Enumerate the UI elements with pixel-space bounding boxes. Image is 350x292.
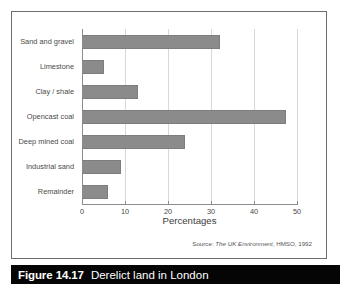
category-axis-labels: Sand and gravel Limestone Clay / shale O… xyxy=(12,29,78,204)
source-publication-title: The UK Environment xyxy=(215,240,272,247)
chart-panel: Sand and gravel Limestone Clay / shale O… xyxy=(11,11,327,259)
tick-mark xyxy=(211,201,212,205)
bar-row xyxy=(82,160,297,174)
figure-caption-bar: Figure 14.17 Derelict land in London xyxy=(11,265,340,284)
source-note: Source: The UK Environment, HMSO, 1992 xyxy=(192,240,312,247)
x-axis-title: Percentages xyxy=(82,215,297,226)
bar xyxy=(82,185,108,199)
plot-area xyxy=(82,29,297,204)
tick-mark xyxy=(254,201,255,205)
bar xyxy=(82,110,286,124)
figure-number: Figure 14.17 xyxy=(18,269,84,281)
tick-mark xyxy=(125,201,126,205)
bar-row xyxy=(82,185,297,199)
category-label: Industrial sand xyxy=(12,160,78,174)
figure-root: Sand and gravel Limestone Clay / shale O… xyxy=(0,0,350,292)
bar-row xyxy=(82,35,297,49)
category-label: Opencast coal xyxy=(12,110,78,124)
bar xyxy=(82,135,185,149)
gridline xyxy=(297,29,298,204)
category-label: Remainder xyxy=(12,185,78,199)
bar xyxy=(82,35,220,49)
category-label: Deep mined coal xyxy=(12,135,78,149)
bar-row xyxy=(82,85,297,99)
bar-row xyxy=(82,110,297,124)
category-label: Clay / shale xyxy=(12,85,78,99)
category-label: Limestone xyxy=(12,60,78,74)
source-detail: , HMSO, 1992 xyxy=(273,240,312,247)
source-label: Source: xyxy=(192,240,213,247)
bar-row xyxy=(82,60,297,74)
tick-mark xyxy=(168,201,169,205)
bar-row xyxy=(82,135,297,149)
tick-mark xyxy=(82,201,83,205)
bar xyxy=(82,85,138,99)
bar xyxy=(82,60,104,74)
figure-title: Derelict land in London xyxy=(91,269,209,281)
tick-mark xyxy=(297,201,298,205)
bar xyxy=(82,160,121,174)
bar-series xyxy=(82,29,297,204)
category-label: Sand and gravel xyxy=(12,35,78,49)
